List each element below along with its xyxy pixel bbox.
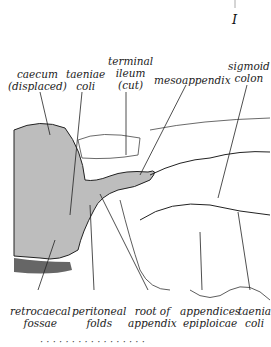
label-terminal-ileum: terminalileum(cut) xyxy=(108,55,153,91)
label-taeniae-coli: taeniaecoli xyxy=(66,68,105,92)
cut-off-caption: · · · · · · · · · · · · · · · · · xyxy=(40,336,145,347)
label-mesoappendix: mesoappendix xyxy=(154,74,231,86)
label-root-of-appendix: root ofappendix xyxy=(128,305,177,329)
label-sigmoid-colon: sigmoidcolon xyxy=(228,60,270,84)
label-caecum: caecum(displaced) xyxy=(8,68,67,92)
label-taenia-coli: taeniacoli xyxy=(238,305,271,329)
label-retrocaecal-fossae: retrocaecalfossae xyxy=(10,305,71,329)
label-appendices-epiploicae: appendicesepiploicae xyxy=(180,305,240,329)
label-peritoneal-folds: peritonealfolds xyxy=(72,305,126,329)
